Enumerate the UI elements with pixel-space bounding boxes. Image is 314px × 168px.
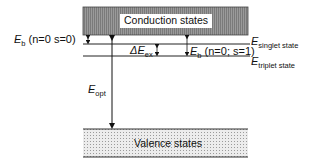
valence-band-label: Valence states <box>130 137 206 151</box>
e-triplet-label: Etriplet state <box>251 56 295 70</box>
e-singlet-label: Esinglet state <box>251 36 298 50</box>
eb-triplet-label: Eb (n=0 s=0) <box>14 34 76 48</box>
eb-singlet-label: Eb (n=0; s=1) <box>190 46 255 60</box>
conduction-band-label: Conduction states <box>120 14 212 28</box>
delta-ex-label: ΔEex <box>130 45 153 59</box>
e-opt-label: Eopt <box>88 84 106 98</box>
